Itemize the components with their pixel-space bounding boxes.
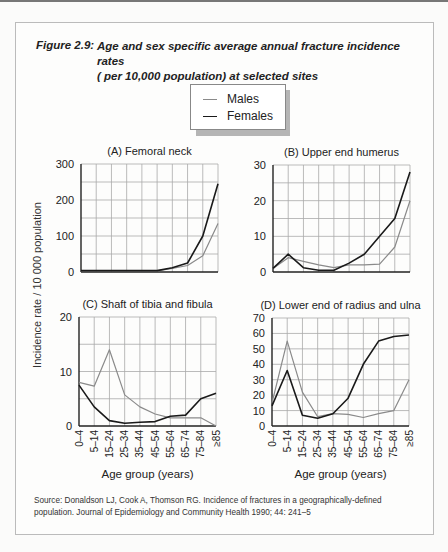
y-tick-label: 0 [259, 420, 265, 432]
x-tick-label: 15–24 [297, 430, 308, 458]
y-axis-title: Incidence rate / 10 000 population [31, 202, 43, 368]
y-tick-label: 10 [253, 405, 265, 417]
males-line [79, 350, 216, 426]
x-axis-title: Age group (years) [101, 468, 193, 480]
x-tick-label: 45–54 [343, 430, 354, 458]
x-tick-label: 65–74 [180, 430, 191, 458]
x-tick-label: 75–84 [388, 430, 399, 458]
y-tick-label: 300 [56, 158, 74, 170]
y-tick-label: 70 [253, 312, 265, 324]
x-tick-label: ≥85 [404, 430, 415, 447]
y-tick-label: 20 [253, 389, 265, 401]
males-line [81, 223, 218, 271]
y-tick-label: 0 [68, 266, 74, 278]
y-tick-label: 60 [253, 327, 265, 339]
x-tick-label: 25–34 [312, 430, 323, 458]
chart-title: (B) Upper end humerus [284, 146, 399, 158]
source-line2: population. Journal of Epidemiology and … [34, 507, 424, 519]
x-tick-label: 35–44 [134, 430, 145, 458]
y-tick-label: 30 [253, 374, 265, 386]
x-tick-label: 15–24 [104, 430, 115, 458]
y-tick-label: 30 [254, 159, 266, 171]
x-tick-label: 55–64 [358, 430, 369, 458]
x-tick-label: 25–34 [119, 430, 130, 458]
charts-canvas: (A) Femoral neck0100200300(B) Upper end … [0, 0, 448, 552]
x-tick-label: 35–44 [327, 430, 338, 458]
chart-title: (C) Shaft of tibia and fibula [82, 298, 213, 310]
y-tick-label: 0 [66, 420, 72, 432]
x-tick-label: 5–14 [89, 430, 100, 453]
x-tick-label: 45–54 [150, 430, 161, 458]
x-tick-label: 5–14 [282, 430, 293, 453]
y-tick-label: 10 [254, 230, 266, 242]
y-tick-label: 20 [254, 195, 266, 207]
x-tick-label: 0–4 [74, 430, 85, 447]
females-line [272, 335, 409, 418]
source-citation: Source: Donaldson LJ, Cook A, Thomson RG… [34, 495, 424, 519]
x-axis-title: Age group (years) [294, 468, 386, 480]
y-tick-label: 20 [60, 311, 72, 323]
source-line1: Source: Donaldson LJ, Cook A, Thomson RG… [34, 495, 424, 507]
y-tick-label: 40 [253, 358, 265, 370]
chart-title: (A) Femoral neck [107, 145, 192, 157]
chart-title: (D) Lower end of radius and ulna [260, 299, 421, 311]
females-line [81, 184, 218, 271]
x-tick-label: 65–74 [373, 430, 384, 458]
x-tick-label: 0–4 [267, 430, 278, 447]
x-tick-label: ≥85 [211, 430, 222, 447]
y-tick-label: 50 [253, 343, 265, 355]
females-line [273, 172, 410, 270]
y-tick-label: 200 [56, 194, 74, 206]
y-tick-label: 0 [260, 266, 266, 278]
y-tick-label: 10 [60, 366, 72, 378]
y-tick-label: 100 [56, 230, 74, 242]
x-tick-label: 75–84 [195, 430, 206, 458]
x-tick-label: 55–64 [165, 430, 176, 458]
